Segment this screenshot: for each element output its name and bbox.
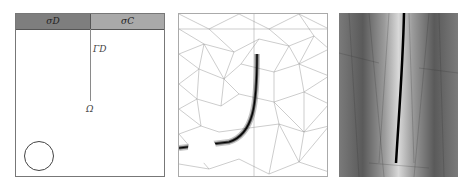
hole-circle [188, 135, 216, 163]
field-panel [339, 13, 458, 177]
mesh-graphic [179, 14, 328, 177]
domain-label: Ω [86, 104, 93, 114]
crack-label: ΓD [93, 44, 106, 54]
band-right-label: σC [121, 16, 134, 26]
geometry-panel: σD σC ΓD Ω [15, 13, 165, 177]
crack-line [90, 29, 91, 101]
band-left-label: σD [46, 16, 59, 26]
mesh-panel [178, 13, 328, 177]
field-graphic [339, 13, 458, 177]
boundary-band-dark: σD [16, 14, 91, 30]
boundary-band-light: σC [91, 14, 164, 30]
hole-circle [24, 141, 54, 171]
